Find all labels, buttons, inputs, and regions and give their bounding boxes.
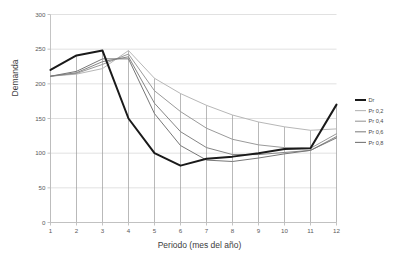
series-line-pr-0-8 bbox=[51, 59, 337, 162]
y-tick-label: 100 bbox=[35, 149, 46, 156]
x-tick-label: 2 bbox=[75, 227, 79, 234]
chart-legend: DrPr 0,2Pr 0,4Pr 0,6Pr 0,8 bbox=[355, 97, 383, 145]
y-tick-label: 250 bbox=[35, 45, 46, 52]
series-line-pr-0-4 bbox=[51, 54, 337, 148]
legend-label-pr-0-4: Pr 0,4 bbox=[369, 118, 384, 124]
y-tick-label: 50 bbox=[39, 184, 46, 191]
x-tick-label: 8 bbox=[231, 227, 235, 234]
drop-lines bbox=[51, 51, 337, 223]
y-tick-label: 0 bbox=[42, 219, 46, 226]
series-line-pr-0-6 bbox=[51, 57, 337, 155]
x-tick-label: 11 bbox=[307, 227, 314, 234]
y-tick-label: 150 bbox=[35, 115, 46, 122]
legend-label-pr-0-6: Pr 0,6 bbox=[369, 129, 384, 135]
x-tick-label: 6 bbox=[179, 227, 183, 234]
y-tick-labels: 050100150200250300 bbox=[35, 11, 46, 226]
legend-label-pr-0-8: Pr 0,8 bbox=[369, 140, 384, 146]
legend-label-pr-0-2: Pr 0,2 bbox=[369, 108, 384, 114]
x-tick-label: 1 bbox=[49, 227, 53, 234]
series-lines bbox=[51, 51, 337, 166]
x-tick-label: 4 bbox=[127, 227, 131, 234]
gridlines bbox=[51, 15, 337, 223]
chart-plot: 050100150200250300 123456789101112 DrPr … bbox=[0, 0, 399, 268]
x-tick-label: 9 bbox=[257, 227, 261, 234]
x-tick-label: 3 bbox=[101, 227, 105, 234]
x-tick-label: 5 bbox=[153, 227, 157, 234]
y-tick-label: 300 bbox=[35, 11, 46, 18]
x-tick-label: 12 bbox=[333, 227, 340, 234]
y-tick-label: 200 bbox=[35, 80, 46, 87]
x-tick-label: 10 bbox=[281, 227, 288, 234]
x-tick-label: 7 bbox=[205, 227, 209, 234]
chart-container: Demanda Periodo (mes del año) 0501001502… bbox=[0, 0, 399, 268]
legend-label-dr: Dr bbox=[369, 97, 375, 103]
x-tick-labels: 123456789101112 bbox=[49, 227, 341, 234]
